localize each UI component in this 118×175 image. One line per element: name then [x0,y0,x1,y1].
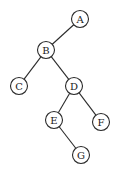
tree-node-c: C [11,78,28,95]
tree-node-g: G [73,147,90,164]
node-label: A [75,14,84,25]
edge-d-e [58,93,69,112]
tree-node-d: D [66,78,83,95]
tree-node-e: E [46,112,63,129]
edge-b-c [24,57,41,79]
node-label: E [50,115,57,126]
edge-b-d [51,57,69,80]
tree-node-f: F [93,114,110,131]
edge-a-b [52,25,73,45]
tree-node-b: B [38,42,55,59]
node-label: D [70,81,78,92]
tree-node-a: A [72,11,89,28]
node-label: G [77,150,85,161]
node-label: C [15,81,23,92]
edge-d-f [79,93,96,115]
edge-e-g [59,127,76,149]
tree-nodes: ABCDEFG [11,11,110,164]
tree-edges [24,25,96,149]
node-label: B [42,45,49,56]
node-label: F [98,117,105,128]
binary-tree-diagram: ABCDEFG [0,0,118,175]
